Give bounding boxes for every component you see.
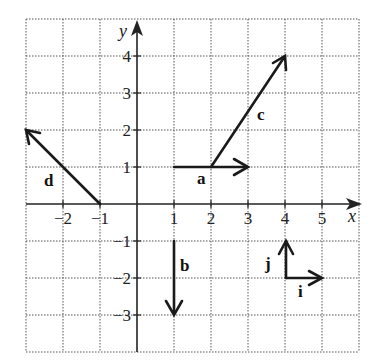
x-tick-label: 1 <box>170 209 179 228</box>
vector-label-b: b <box>180 256 189 275</box>
x-tick-label: 5 <box>318 209 327 228</box>
y-tick-label: −3 <box>113 306 131 325</box>
x-tick-label: 3 <box>244 209 253 228</box>
y-tick-label: −1 <box>113 232 131 251</box>
vector-d <box>26 130 100 204</box>
x-tick-label: −2 <box>54 209 72 228</box>
y-tick-label: 2 <box>123 121 132 140</box>
y-tick-label: 1 <box>123 158 132 177</box>
grid <box>26 19 359 352</box>
y-tick-label: 3 <box>123 84 132 103</box>
vector-diagram: x y −2 −1 1 2 3 4 5 4 3 2 1 −1 −2 −3 a c… <box>0 0 383 360</box>
vector-label-j: j <box>264 254 271 273</box>
vector-c <box>211 56 286 167</box>
y-axis-label: y <box>117 21 127 41</box>
y-tick-label: 4 <box>123 47 132 66</box>
x-tick-label: −1 <box>91 209 109 228</box>
vector-i <box>286 271 322 285</box>
x-tick-label: 2 <box>207 209 216 228</box>
x-tick-label: 4 <box>281 209 290 228</box>
vector-label-a: a <box>197 169 206 188</box>
x-axis-label: x <box>347 206 356 226</box>
axes <box>26 20 362 352</box>
vector-label-d: d <box>44 171 54 190</box>
vector-label-c: c <box>257 105 265 124</box>
vector-j <box>279 241 293 278</box>
vector-label-i: i <box>298 282 303 301</box>
y-tick-label: −2 <box>113 269 131 288</box>
